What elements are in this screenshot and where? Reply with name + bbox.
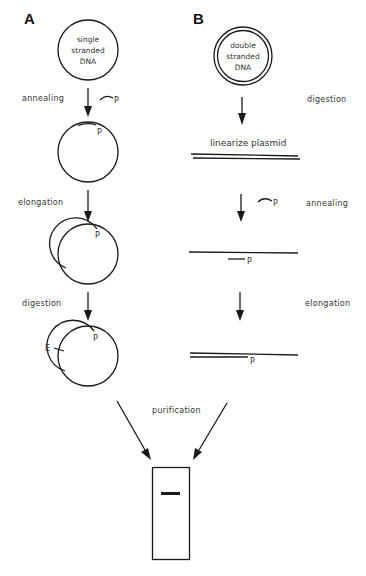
ssdna-circle: single stranded DNA [58,20,118,80]
step-label-elongation-a: elongation [18,198,63,207]
panel-a-label: A [24,10,35,27]
free-primer-a: P [100,96,119,105]
digested-circle-a: E P [45,320,118,386]
step-label-digestion-a: digestion [22,299,62,308]
dsdna-text-2: stranded [226,52,260,61]
elongated-linear-b: P [190,353,298,366]
arrow-annealing-b [237,194,245,222]
ssdna-vs-dsdna-probe-synthesis-diagram: A single stranded DNA annealing P P elon… [0,0,366,576]
linear-dsdna [191,154,300,159]
free-primer-b: P [258,199,278,208]
primer-label-annealed-a: P [97,128,102,137]
step-label-purification: purification [152,406,201,415]
panel-b-label: B [193,10,204,27]
gel-lane [153,468,190,560]
enzyme-label-e: E [45,344,50,353]
step-label-annealing-a: annealing [22,94,64,103]
primer-label-digested-a: P [93,334,98,343]
dsdna-text-1: double [230,41,256,50]
gel-band [161,492,180,495]
primer-label-elongated-b: P [250,357,255,366]
arrow-annealing-a [84,88,92,117]
step-label-digestion-b: digestion [307,95,347,104]
dsdna-circle: double stranded DNA [214,27,272,85]
elongated-circle-a: P [50,218,118,284]
annealed-linear-b: P [189,252,298,266]
ssdna-text-1: single [77,35,100,44]
dsdna-text-3: DNA [235,63,252,72]
arrow-digestion-a [84,292,92,321]
arrow-purification-left [117,401,151,460]
step-label-elongation-b: elongation [305,299,350,308]
annealed-circle-a: P [58,122,118,182]
primer-label-free-b: P [273,199,278,208]
step-label-annealing-b: annealing [306,199,348,208]
primer-label-annealed-b: P [247,257,252,266]
primer-label-free-a: P [114,96,119,105]
arrow-digestion-b [238,97,246,125]
linearize-plasmid-label: linearize plasmid [210,138,286,148]
arrow-elongation-a [84,190,92,222]
arrow-elongation-b [236,292,244,321]
primer-label-elongated-a: P [95,231,100,240]
ssdna-text-3: DNA [80,57,97,66]
ssdna-text-2: stranded [71,46,105,55]
